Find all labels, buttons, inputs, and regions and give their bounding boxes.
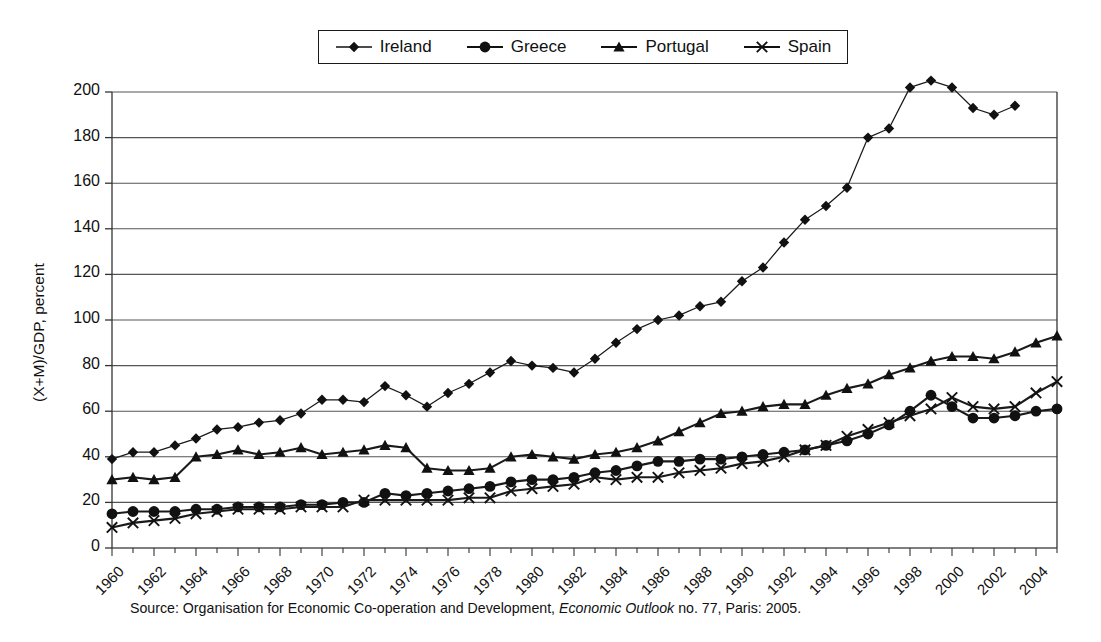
- data-point-diamond: [569, 367, 579, 377]
- source-suffix: no. 77, Paris: 2005.: [678, 600, 801, 616]
- data-point-triangle: [295, 442, 306, 452]
- y-tick-label: 0: [91, 537, 100, 555]
- y-tick-label: 180: [73, 127, 100, 145]
- data-point-circle: [443, 486, 454, 497]
- data-point-circle: [527, 474, 538, 485]
- y-tick-label: 20: [82, 491, 100, 509]
- data-point-diamond: [296, 408, 306, 418]
- data-point-diamond: [632, 324, 642, 334]
- data-point-circle: [296, 499, 307, 510]
- data-point-circle: [464, 483, 475, 494]
- y-tick-label: 140: [73, 218, 100, 236]
- data-point-circle: [716, 454, 727, 465]
- data-point-diamond: [590, 354, 600, 364]
- data-point-diamond: [380, 381, 390, 391]
- data-point-cross: [1031, 388, 1041, 398]
- data-point-diamond: [317, 395, 327, 405]
- y-tick-label: 100: [73, 309, 100, 327]
- data-point-diamond: [674, 310, 684, 320]
- y-tick-label: 120: [73, 263, 100, 281]
- data-point-circle: [506, 476, 517, 487]
- data-point-circle: [233, 502, 244, 513]
- data-point-triangle: [694, 417, 705, 427]
- data-point-diamond: [359, 397, 369, 407]
- source-italic-title: Economic Outlook: [559, 600, 674, 616]
- data-point-circle: [107, 508, 118, 519]
- data-point-circle: [695, 454, 706, 465]
- data-point-circle: [254, 502, 265, 513]
- data-point-circle: [1031, 406, 1042, 417]
- data-point-circle: [947, 401, 958, 412]
- data-point-diamond: [485, 367, 495, 377]
- data-point-cross: [947, 392, 957, 402]
- data-point-diamond: [233, 422, 243, 432]
- chart-figure: IrelandGreecePortugalSpain (X+M)/GDP, pe…: [0, 0, 1101, 642]
- data-point-diamond: [611, 338, 621, 348]
- plot-area: [0, 0, 1101, 642]
- data-point-diamond: [275, 415, 285, 425]
- y-tick-label: 160: [73, 172, 100, 190]
- data-point-circle: [128, 506, 139, 517]
- data-point-diamond: [128, 447, 138, 457]
- data-point-triangle: [652, 435, 663, 445]
- series-line-spain: [112, 382, 1057, 528]
- data-point-cross: [926, 404, 936, 414]
- data-point-diamond: [905, 82, 915, 92]
- data-point-triangle: [673, 426, 684, 436]
- data-point-circle: [674, 456, 685, 467]
- y-tick-label: 200: [73, 81, 100, 99]
- data-point-diamond: [464, 379, 474, 389]
- data-point-triangle: [232, 444, 243, 454]
- y-tick-label: 80: [82, 355, 100, 373]
- data-point-diamond: [149, 447, 159, 457]
- data-point-diamond: [212, 424, 222, 434]
- data-point-diamond: [1010, 100, 1020, 110]
- data-point-diamond: [527, 360, 537, 370]
- data-point-diamond: [191, 433, 201, 443]
- data-point-diamond: [548, 363, 558, 373]
- data-point-circle: [611, 465, 622, 476]
- data-point-circle: [212, 504, 223, 515]
- y-tick-label: 40: [82, 446, 100, 464]
- data-point-triangle: [862, 378, 873, 388]
- data-point-diamond: [443, 388, 453, 398]
- data-point-circle: [968, 413, 979, 424]
- data-point-diamond: [653, 315, 663, 325]
- data-point-diamond: [422, 401, 432, 411]
- data-point-diamond: [254, 417, 264, 427]
- y-tick-label: 60: [82, 400, 100, 418]
- data-point-circle: [149, 506, 160, 517]
- data-point-triangle: [1051, 330, 1062, 340]
- data-point-circle: [653, 456, 664, 467]
- data-point-circle: [926, 390, 937, 401]
- data-point-diamond: [338, 395, 348, 405]
- data-point-diamond: [107, 454, 117, 464]
- data-point-diamond: [170, 440, 180, 450]
- data-point-circle: [485, 481, 496, 492]
- data-point-diamond: [506, 356, 516, 366]
- data-point-diamond: [989, 110, 999, 120]
- data-point-circle: [1010, 410, 1021, 421]
- data-point-triangle: [1009, 346, 1020, 356]
- data-point-circle: [275, 502, 286, 513]
- data-point-circle: [989, 413, 1000, 424]
- data-point-circle: [1052, 404, 1063, 415]
- data-point-diamond: [884, 123, 894, 133]
- data-point-diamond: [926, 75, 936, 85]
- source-note: Source: Organisation for Economic Co-ope…: [130, 600, 801, 616]
- source-prefix: Source: Organisation for Economic Co-ope…: [130, 600, 555, 616]
- data-point-diamond: [401, 390, 411, 400]
- data-point-circle: [317, 499, 328, 510]
- data-point-diamond: [863, 132, 873, 142]
- data-point-circle: [632, 461, 643, 472]
- data-point-diamond: [695, 301, 705, 311]
